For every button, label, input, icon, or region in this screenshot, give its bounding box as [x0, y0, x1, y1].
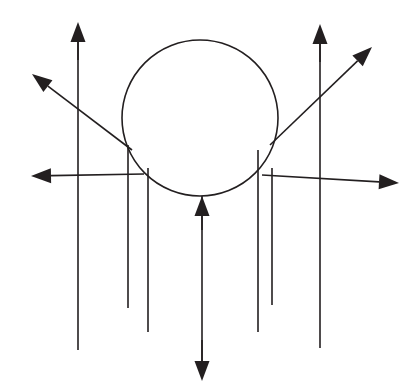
arrow-head-icon — [31, 168, 51, 183]
arrow-shaft — [48, 86, 132, 150]
diagram-canvas: Field line diagram with circular body — [0, 0, 414, 391]
circle-body — [122, 40, 278, 196]
arrow-shaft-group — [48, 42, 379, 361]
arrow-head-icon — [195, 196, 210, 216]
arrow-head-icon — [379, 174, 399, 189]
arrow-head-icon — [195, 361, 210, 381]
arrow-head-group — [31, 22, 399, 381]
vertical-line-group — [78, 28, 320, 372]
field-line-figure: Field line diagram with circular body — [0, 0, 414, 391]
arrow-head-icon — [313, 24, 328, 44]
arrow-shaft — [270, 61, 358, 145]
arrow-head-icon — [32, 74, 52, 92]
arrow-head-icon — [71, 22, 86, 42]
arrow-shaft — [51, 174, 144, 176]
